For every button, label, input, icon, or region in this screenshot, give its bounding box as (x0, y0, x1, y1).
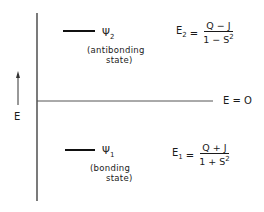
energy-axis-label: E (14, 111, 20, 122)
e1-equation: E1 = Q + J 1 + S2 (172, 143, 232, 167)
e1-fraction: Q + J 1 + S2 (197, 143, 232, 167)
psi2-label: Ψ2 (102, 27, 114, 43)
zero-energy-label: E = O (223, 95, 252, 106)
antibonding-desc-2: state) (106, 55, 133, 65)
bonding-desc-2: state) (106, 173, 133, 183)
e2-fraction: Q − J 1 − S2 (201, 21, 236, 45)
arrow-up-icon (16, 71, 20, 78)
e2-equation: E2 = Q − J 1 − S2 (176, 21, 236, 45)
antibonding-desc-1: (antibonding (87, 45, 145, 55)
psi1-label: Ψ1 (102, 145, 114, 161)
bonding-desc-1: (bonding (90, 163, 130, 173)
